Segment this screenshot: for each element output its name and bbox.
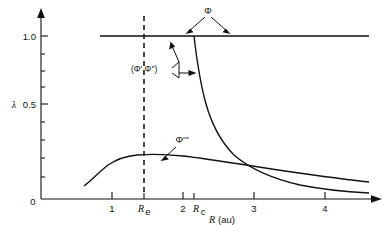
x-label-Rc-subscript: c [201, 206, 206, 217]
annotation-phi-leader-right [211, 17, 227, 31]
scientific-line-chart: 1.0 0.5 0 λ 1 2 3 4 R e R c R [0, 0, 389, 225]
x-label-Re-base: R [137, 203, 144, 214]
x-axis-arrowhead [371, 195, 382, 203]
annotation-phi: Φ [186, 5, 231, 34]
x-label-Re-subscript: e [145, 206, 150, 217]
annotation-phi-pair-leader-up [172, 46, 179, 62]
curve-phi-descending [194, 36, 369, 193]
chart-container: 1.0 0.5 0 λ 1 2 3 4 R e R c R [0, 0, 389, 225]
x-tick-label-1: 1 [109, 203, 114, 214]
y-axis-arrowhead [37, 8, 45, 18]
annotation-phi-arrowhead-left [186, 28, 194, 34]
curve-phi-triple-prime [84, 154, 369, 186]
x-label-Re: R e [137, 203, 151, 217]
annotation-phi-label: Φ [204, 5, 212, 16]
x-tick-label-3: 3 [251, 203, 256, 214]
x-axis-title-units: (au) [218, 214, 235, 225]
annotation-phi-leader-left [189, 17, 205, 31]
annotation-phi-pair-label: (Φ',Φ'') [131, 64, 158, 74]
annotation-phi-triple-arrowhead [161, 156, 169, 161]
annotation-phi-pair-arrowhead-up [169, 42, 175, 50]
y-tick-label-0.5: 0.5 [23, 99, 36, 110]
x-ticks-group [112, 192, 325, 199]
y-tick-label-1.0: 1.0 [23, 31, 36, 42]
annotation-phi-triple: Φ''' [161, 134, 189, 161]
annotation-phi-triple-label: Φ''' [175, 134, 188, 145]
x-axis-title: R (au) [208, 214, 235, 225]
y-ticks-group [41, 36, 48, 177]
x-label-Rc-base: R [192, 203, 199, 214]
y-tick-label-0: 0 [30, 196, 35, 207]
x-axis-title-main: R [208, 214, 215, 225]
annotation-phi-arrowhead-right [223, 28, 231, 34]
x-label-Rc: R c [192, 203, 206, 217]
x-tick-label-2: 2 [180, 203, 185, 214]
axes-group [37, 8, 382, 203]
annotation-phi-pair-bracket [172, 62, 179, 78]
x-tick-label-4: 4 [322, 203, 327, 214]
y-axis-title: λ [11, 99, 17, 110]
annotation-phi-pair-arrowhead-right [189, 70, 197, 76]
annotation-phi-pair: (Φ',Φ'') [131, 42, 197, 79]
